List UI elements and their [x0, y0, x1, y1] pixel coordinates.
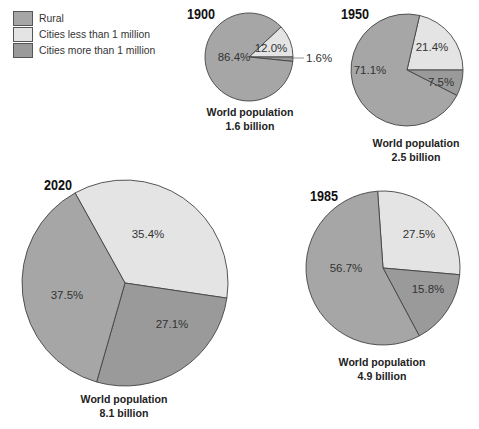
year-1985: 1985 — [310, 188, 338, 204]
caption-1900: World population 1.6 billion — [195, 105, 305, 133]
slice-label: 1.6% — [306, 52, 332, 64]
slice-label: 7.5% — [428, 76, 454, 88]
slice-label: 35.4% — [132, 228, 165, 240]
pie-1900: 86.4%12.0%1.6% — [205, 13, 332, 101]
year-1950: 1950 — [341, 6, 369, 22]
pie-1950: 71.1%21.4%7.5% — [351, 14, 463, 126]
slice-label: 21.4% — [416, 41, 449, 53]
slice-label: 12.0% — [255, 42, 288, 54]
slice-label: 27.5% — [403, 228, 436, 240]
caption-1950: World population 2.5 billion — [361, 136, 471, 164]
year-2020: 2020 — [44, 177, 72, 193]
slice-label: 56.7% — [330, 262, 363, 274]
slice-label: 37.5% — [51, 289, 84, 301]
caption-line2: 1.6 billion — [195, 119, 305, 133]
caption-line1: World population — [69, 392, 179, 406]
caption-line1: World population — [195, 105, 305, 119]
slice-label: 15.8% — [412, 283, 445, 295]
slice-label: 27.1% — [156, 318, 189, 330]
caption-line2: 2.5 billion — [361, 150, 471, 164]
year-1900: 1900 — [187, 6, 215, 22]
caption-line1: World population — [327, 355, 437, 369]
slice-label: 86.4% — [218, 51, 251, 63]
pie-2020: 37.5%35.4%27.1% — [22, 180, 228, 386]
caption-line2: 4.9 billion — [327, 369, 437, 383]
pie-1985: 56.7%27.5%15.8% — [306, 191, 460, 345]
caption-2020: World population 8.1 billion — [69, 392, 179, 420]
caption-line1: World population — [361, 136, 471, 150]
caption-1985: World population 4.9 billion — [327, 355, 437, 383]
caption-line2: 8.1 billion — [69, 406, 179, 420]
slice-label: 71.1% — [354, 64, 387, 76]
